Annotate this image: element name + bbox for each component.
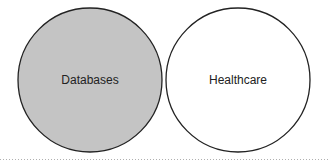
databases-label: Databases bbox=[61, 73, 118, 87]
healthcare-label: Healthcare bbox=[209, 73, 267, 87]
set-healthcare: Healthcare bbox=[166, 8, 310, 152]
set-databases: Databases bbox=[18, 8, 162, 152]
venn-diagram: Databases Healthcare bbox=[0, 0, 328, 164]
